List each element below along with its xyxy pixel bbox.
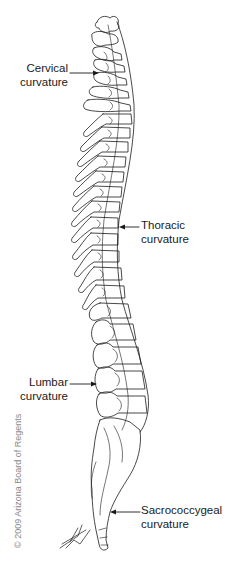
sacrum-coccyx <box>91 418 140 550</box>
cervical-vertebrae <box>84 47 131 112</box>
label-line-1: Sacrococcygeal <box>141 504 222 518</box>
label-line-2: curvature <box>14 76 68 90</box>
lumbar-curvature-label: Lumbar curvature <box>14 376 68 403</box>
copyright-notice: © 2009 Arizona Board of Regents <box>13 414 23 548</box>
sacrococcygeal-curvature-label: Sacrococcygeal curvature <box>141 504 222 531</box>
artist-signature <box>60 525 90 548</box>
label-line-1: Thoracic <box>141 219 189 233</box>
spine-diagram: Cervical curvature Thoracic curvature Lu… <box>0 0 236 575</box>
atlas-vertebra <box>95 16 119 32</box>
label-line-2: curvature <box>14 390 68 404</box>
label-line-2: curvature <box>141 233 189 247</box>
label-line-1: Lumbar <box>14 376 68 390</box>
axis-vertebra <box>92 31 118 46</box>
lumbar-vertebrae <box>89 303 147 417</box>
thoracic-vertebrae <box>72 114 132 310</box>
label-line-1: Cervical <box>14 62 68 76</box>
thoracic-curvature-label: Thoracic curvature <box>141 219 189 246</box>
label-line-2: curvature <box>141 518 222 532</box>
cervical-curvature-label: Cervical curvature <box>14 62 68 89</box>
